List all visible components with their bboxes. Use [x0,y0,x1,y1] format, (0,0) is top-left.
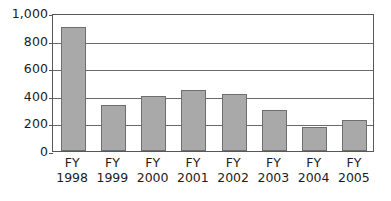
bar [302,127,327,151]
bar [101,105,126,151]
y-tickmark [49,153,53,154]
y-axis-labels: 02004006008001,000 [0,0,48,201]
y-tick-label: 200 [0,117,48,130]
x-tick-label-year: 2004 [294,170,334,185]
x-tick-label-year: 2002 [213,170,253,185]
x-tick-label-prefix: FY [52,155,92,170]
bar [262,110,287,151]
x-tick-label-prefix: FY [173,155,213,170]
y-tick-label: 400 [0,90,48,103]
bar [342,120,367,151]
x-tick-label-year: 2001 [173,170,213,185]
x-tick-label: FY1999 [92,155,132,185]
bar [222,94,247,151]
x-tick-label: FY2001 [173,155,213,185]
x-tick-label-year: 2003 [253,170,293,185]
x-axis-labels: FY1998FY1999FY2000FY2001FY2002FY2003FY20… [52,155,374,199]
x-tick-label-prefix: FY [294,155,334,170]
y-tick-label: 1,000 [0,7,48,20]
x-tick-label: FY2002 [213,155,253,185]
x-tick-label: FY2005 [334,155,374,185]
x-tick-label-prefix: FY [253,155,293,170]
y-tick-label: 600 [0,62,48,75]
x-tick-label: FY2004 [294,155,334,185]
x-tick-label: FY1998 [52,155,92,185]
y-tick-label: 800 [0,35,48,48]
bar [141,96,166,151]
x-tick-label: FY2003 [253,155,293,185]
x-tick-label-prefix: FY [334,155,374,170]
bar-chart: 02004006008001,000 FY1998FY1999FY2000FY2… [0,0,391,201]
x-tick-label-year: 1998 [52,170,92,185]
x-tick-label-prefix: FY [92,155,132,170]
y-tick-label: 0 [0,145,48,158]
bar [181,90,206,151]
bars-series [53,15,373,151]
x-tick-label-year: 1999 [92,170,132,185]
plot-area [52,14,374,152]
x-tick-label-year: 2000 [133,170,173,185]
x-tick-label-prefix: FY [133,155,173,170]
x-tick-label: FY2000 [133,155,173,185]
bar [61,27,86,151]
x-tick-label-prefix: FY [213,155,253,170]
x-tick-label-year: 2005 [334,170,374,185]
